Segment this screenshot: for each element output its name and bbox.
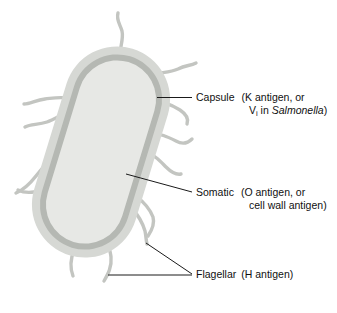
label-somatic-detail-line2: cell wall antigen) bbox=[249, 199, 327, 211]
label-flagellar-line1: Flagellar(H antigen) bbox=[196, 268, 293, 281]
label-flagellar-detail-line1: (H antigen) bbox=[241, 268, 293, 281]
label-capsule: Capsule(K antigen, or Vi in Salmonella) bbox=[196, 91, 327, 116]
label-flagellar: Flagellar(H antigen) bbox=[196, 268, 293, 281]
label-capsule-detail-line1: (K antigen, or bbox=[242, 91, 305, 104]
label-capsule-in-text: in bbox=[258, 104, 272, 116]
label-capsule-close-paren: ) bbox=[324, 104, 328, 116]
label-flagellar-term: Flagellar bbox=[196, 268, 236, 281]
label-somatic-term: Somatic bbox=[196, 186, 234, 199]
label-capsule-vi-prefix: V bbox=[249, 104, 256, 116]
label-capsule-line1: Capsule(K antigen, or bbox=[196, 91, 327, 104]
bacterial-cell bbox=[19, 33, 184, 271]
label-somatic-line2: cell wall antigen) bbox=[196, 199, 327, 212]
label-somatic-line1: Somatic(O antigen, or bbox=[196, 186, 327, 199]
label-capsule-salmonella: Salmonella bbox=[272, 104, 324, 116]
label-capsule-term: Capsule bbox=[196, 91, 235, 104]
label-capsule-line2: Vi in Salmonella) bbox=[196, 104, 327, 117]
diagram-canvas bbox=[0, 0, 337, 313]
bacteria-antigen-diagram: Capsule(K antigen, or Vi in Salmonella) … bbox=[0, 0, 337, 313]
leader-line-flagellar-diagonal bbox=[146, 243, 192, 274]
label-somatic: Somatic(O antigen, or cell wall antigen) bbox=[196, 186, 327, 211]
label-somatic-detail-line1: (O antigen, or bbox=[241, 186, 305, 199]
